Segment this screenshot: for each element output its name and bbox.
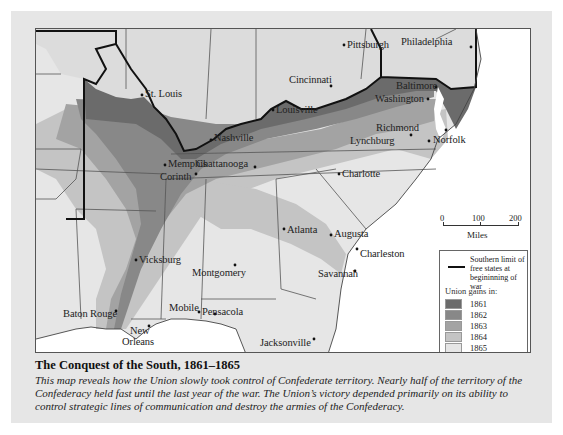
city-label-charleston: Charleston [360,249,405,260]
city-label-philadelphia: Philadelphia [401,37,452,48]
scale-unit: Miles [467,230,488,240]
scale-tick-100: 100 [472,213,485,223]
city-label-lynchburg: Lynchburg [350,136,394,147]
city-label-jacksonville: Jacksonville [260,338,311,349]
city-label-louisville: Louisville [276,105,318,116]
legend-item-1865: 1865 [445,343,523,353]
free-states-limit-line-swatch [448,266,465,268]
city-label-pensacola: Pensacola [202,307,243,318]
figure-caption: The Conquest of the South, 1861–1865 Thi… [35,358,535,413]
legend-item-1863: 1863 [445,321,523,332]
city-label-atlanta: Atlanta [287,225,317,236]
city-label-chattanooga: Chattanooga [196,159,248,170]
city-label-corinth: Corinth [160,172,191,183]
city-label-savannah: Savannah [318,269,358,280]
scale-tick-200: 200 [509,213,522,223]
legend-swatch [445,299,462,309]
scale-tick-mark [480,222,481,226]
legend-year: 1861 [470,299,487,309]
city-label-new-orleans-2: Orleans [122,337,154,348]
legend-year: 1862 [470,310,487,320]
city-label-augusta: Augusta [334,229,368,240]
legend-swatch [445,310,462,320]
legend: Southern limit of free states at beginin… [439,250,528,353]
city-label-nashville: Nashville [214,133,253,144]
legend-year: 1865 [470,343,487,353]
legend-item-1862: 1862 [445,310,523,321]
scale-bar: 0 100 200 Miles [440,213,522,243]
figure-panel: Pittsburgh Philadelphia St. Louis Cincin… [11,11,552,423]
legend-swatch [445,343,462,353]
city-label-charlotte: Charlotte [342,169,380,180]
city-label-cincinnati: Cincinnati [289,75,332,86]
city-label-washington: Washington [375,94,424,105]
city-label-pittsburgh: Pittsburgh [347,40,389,51]
legend-swatch [445,332,462,342]
figure-title: The Conquest of the South, 1861–1865 [35,358,535,373]
city-label-richmond: Richmond [376,123,419,134]
city-label-vicksburg: Vicksburg [139,255,181,266]
scale-line [443,225,519,226]
scale-tick-mark [518,222,519,226]
legend-item-1864: 1864 [445,332,523,343]
city-label-baton-rouge: Baton Rouge [63,309,117,320]
legend-item-1861: 1861 [445,299,523,310]
city-label-new-orleans-1: New [130,326,150,337]
city-label-baltimore: Baltimore [396,81,437,92]
city-label-st-louis: St. Louis [145,89,182,100]
map-frame: Pittsburgh Philadelphia St. Louis Cincin… [35,28,531,353]
city-label-mobile: Mobile [169,303,199,314]
legend-swatch [445,321,462,331]
scale-tick-mark [443,222,444,226]
legend-gains-title: Union gains in: [445,286,497,296]
city-label-montgomery: Montgomery [192,268,246,279]
legend-year: 1864 [470,332,487,342]
figure-caption-text: This map reveals how the Union slowly to… [35,374,535,413]
city-label-norfolk: Norfolk [433,135,466,146]
legend-year: 1863 [470,321,487,331]
